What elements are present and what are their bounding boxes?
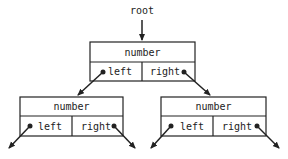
right-pointer-arrow <box>257 126 279 148</box>
right-pointer-arrow <box>184 72 210 95</box>
right-pointer-arrow <box>114 126 135 148</box>
node-right-label: right <box>81 121 111 132</box>
node-left-label: left <box>38 121 62 132</box>
tree-node-right-child: number left right <box>161 97 266 136</box>
node-left-label: left <box>108 66 132 77</box>
node-value-label: number <box>53 101 89 112</box>
node-value-label: number <box>195 101 231 112</box>
node-left-label: left <box>180 121 204 132</box>
tree-diagram: root number left right number left right… <box>0 0 288 159</box>
node-right-label: right <box>150 66 180 77</box>
tree-node-left-child: number left right <box>20 97 123 136</box>
root-label: root <box>130 5 154 16</box>
node-right-label: right <box>222 121 252 132</box>
node-value-label: number <box>124 47 160 58</box>
tree-node-top: number left right <box>90 42 195 81</box>
